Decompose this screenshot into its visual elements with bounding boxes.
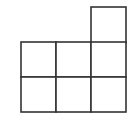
- grid-cell: [21, 42, 56, 77]
- grid-cell: [91, 77, 126, 112]
- grid-cell: [91, 7, 126, 43]
- grid-cell: [56, 77, 91, 112]
- grid-cell: [21, 77, 56, 112]
- grid-cell: [56, 42, 91, 77]
- polyomino-diagram: [0, 0, 136, 124]
- grid-cell: [91, 42, 126, 77]
